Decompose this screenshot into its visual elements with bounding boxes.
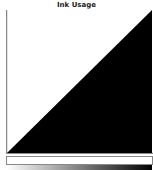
ink-usage-area-chart bbox=[6, 10, 153, 154]
gradient-fill bbox=[7, 165, 152, 170]
plot-area bbox=[6, 10, 153, 154]
chart-title: Ink Usage bbox=[0, 1, 153, 10]
ink-usage-area bbox=[7, 10, 152, 153]
gradient-colorbar bbox=[6, 156, 153, 165]
